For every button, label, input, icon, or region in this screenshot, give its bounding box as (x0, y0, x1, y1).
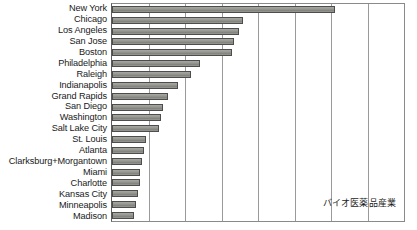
category-label: Indianapolis (0, 80, 110, 91)
category-label: Minneapolis (0, 200, 110, 211)
bar-row (112, 156, 404, 167)
bar-chart: New YorkChicagoLos AngelesSan JoseBoston… (0, 0, 417, 230)
category-label: Washington (0, 113, 110, 124)
bars-layer (112, 4, 404, 221)
bar-row (112, 58, 404, 69)
bar (112, 93, 168, 100)
bar (112, 49, 232, 56)
bar (112, 169, 140, 176)
category-label: Salt Lake City (0, 123, 110, 134)
bar (112, 6, 335, 13)
bar-row (112, 178, 404, 189)
bar (112, 179, 140, 186)
annotation-label: バイオ医薬品産業 (323, 199, 397, 208)
bar (112, 147, 144, 154)
bar-row (112, 15, 404, 26)
category-label: San Diego (0, 102, 110, 113)
category-label: Boston (0, 47, 110, 58)
category-label: Charlotte (0, 178, 110, 189)
bar-row (112, 69, 404, 80)
bar-row (112, 145, 404, 156)
bar-row (112, 123, 404, 134)
bar-row (112, 167, 404, 178)
category-label: Philadelphia (0, 58, 110, 69)
bar (112, 17, 243, 24)
category-axis: New YorkChicagoLos AngelesSan JoseBoston… (0, 3, 110, 222)
category-label: Grand Rapids (0, 91, 110, 102)
bar (112, 136, 146, 143)
bar-row (112, 37, 404, 48)
bar-row (112, 102, 404, 113)
bar (112, 82, 178, 89)
category-label: Los Angeles (0, 25, 110, 36)
category-label: St. Louis (0, 134, 110, 145)
bar (112, 114, 161, 121)
bar-row (112, 80, 404, 91)
category-label: New York (0, 3, 110, 14)
category-label: Atlanta (0, 145, 110, 156)
bar-row (112, 26, 404, 37)
bar (112, 201, 136, 208)
bar (112, 71, 191, 78)
bar-row (112, 47, 404, 58)
bar-row (112, 112, 404, 123)
bar-row (112, 210, 404, 221)
bar (112, 158, 142, 165)
category-label: Chicago (0, 14, 110, 25)
bar (112, 60, 200, 67)
category-label: San Jose (0, 36, 110, 47)
bar (112, 212, 134, 219)
category-label: Clarksburg+Morgantown (0, 156, 110, 167)
plot-area (111, 3, 405, 222)
bar (112, 125, 159, 132)
bar-row (112, 4, 404, 15)
bar (112, 38, 234, 45)
bar (112, 28, 239, 35)
category-label: Kansas City (0, 189, 110, 200)
bar-row (112, 91, 404, 102)
category-label: Madison (0, 211, 110, 222)
bar-row (112, 134, 404, 145)
bar (112, 190, 138, 197)
bar (112, 104, 163, 111)
category-label: Miami (0, 167, 110, 178)
category-label: Raleigh (0, 69, 110, 80)
